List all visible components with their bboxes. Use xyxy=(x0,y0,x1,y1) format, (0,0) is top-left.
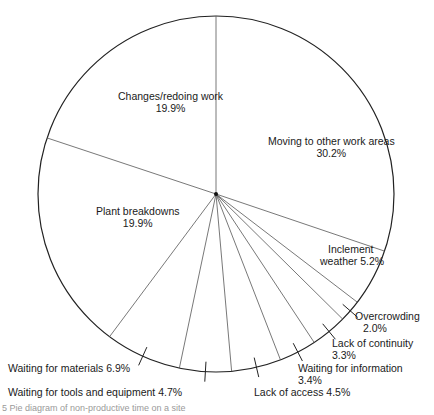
label-name: Moving to other work areas xyxy=(268,135,395,147)
label-pct: 3.3% xyxy=(332,349,413,361)
label-name: Waiting for information xyxy=(298,362,403,374)
slice-divider xyxy=(47,138,216,194)
leader-tick xyxy=(205,362,206,382)
label-pct: 30.2% xyxy=(268,147,395,159)
label-plant: Plant breakdowns 19.9% xyxy=(96,205,179,229)
label-continuity: Lack of continuity 3.3% xyxy=(332,337,413,361)
leader-tick xyxy=(293,343,302,361)
label-information: Waiting for information 3.4% xyxy=(298,362,403,386)
label-name: Overcrowding xyxy=(355,310,420,322)
leader-tick xyxy=(139,347,147,365)
label-changes: Changes/redoing work 19.9% xyxy=(118,90,223,114)
slice-divider xyxy=(216,194,232,371)
label-pct: 2.0% xyxy=(355,322,420,334)
slice-divider xyxy=(179,194,216,368)
label-pct: 19.9% xyxy=(118,102,223,114)
label-line1: Inclement xyxy=(320,243,384,255)
label-materials: Waiting for materials 6.9% xyxy=(8,362,130,374)
pie-center xyxy=(214,192,218,196)
label-name: Plant breakdowns xyxy=(96,205,179,217)
label-inclement: Inclement weather 5.2% xyxy=(320,243,384,267)
label-pct: 3.4% xyxy=(298,374,403,386)
label-name: Changes/redoing work xyxy=(118,90,223,102)
label-overcrowding: Overcrowding 2.0% xyxy=(355,310,420,334)
label-line2: weather 5.2% xyxy=(320,255,384,267)
label-pct: 19.9% xyxy=(96,217,179,229)
figure-caption: 5 Pie diagram of non-productive time on … xyxy=(2,403,186,413)
label-access: Lack of access 4.5% xyxy=(254,386,350,398)
label-name: Lack of continuity xyxy=(332,337,413,349)
label-tools: Waiting for tools and equipment 4.7% xyxy=(8,386,182,398)
label-moving: Moving to other work areas 30.2% xyxy=(268,135,395,159)
